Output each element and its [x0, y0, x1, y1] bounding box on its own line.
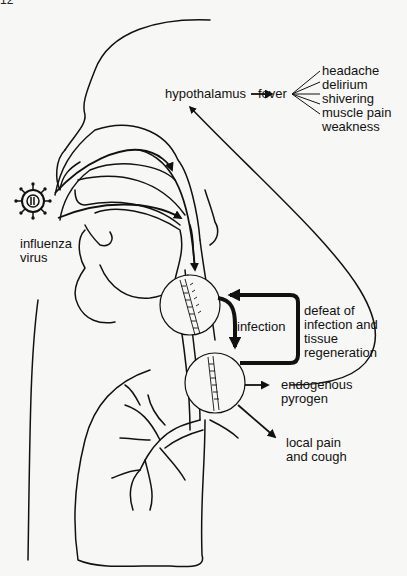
head-outline — [65, 20, 210, 150]
arrow-throat-down — [140, 150, 195, 270]
magnified-mucosa-upper — [160, 275, 220, 335]
lung — [75, 370, 205, 567]
symptom-fan — [292, 71, 320, 114]
neck-front — [28, 300, 38, 560]
symptom-list: headache delirium shivering muscle pain … — [322, 64, 391, 134]
label-influenza-virus: influenza virus — [20, 237, 72, 265]
magnified-mucosa-lower — [185, 353, 245, 413]
label-fever: fever — [258, 87, 287, 101]
label-defeat-of-infection: defeat of infection and tissue regenerat… — [304, 304, 378, 360]
nose — [57, 150, 80, 190]
palate — [78, 176, 185, 215]
symptom-delirium: delirium — [322, 78, 391, 92]
label-local-pain-and-cough: local pain and cough — [286, 436, 347, 464]
arrow-to-local-pain — [238, 405, 275, 437]
influenza-diagram: 12 — [0, 0, 407, 576]
symptom-muscle-pain: muscle pain — [322, 106, 391, 120]
label-hypothalamus: hypothalamus — [165, 87, 246, 101]
symptom-headache: headache — [322, 64, 391, 78]
arrow-virus-lower — [58, 205, 181, 219]
label-endogenous-pyrogen: endogenous pyrogen — [281, 378, 353, 406]
influenza-virus-icon — [14, 182, 51, 219]
symptom-weakness: weakness — [322, 120, 391, 134]
label-infection: infection — [237, 320, 285, 334]
symptom-shivering: shivering — [322, 92, 391, 106]
